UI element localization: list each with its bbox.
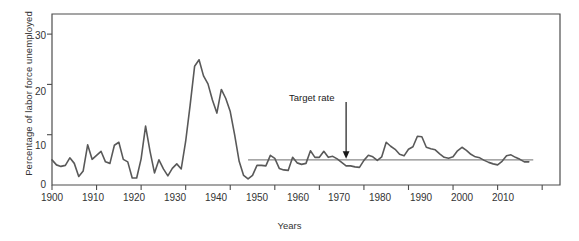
unemployment-chart-figure: Percentage of labor force unemployed Yea… bbox=[0, 0, 579, 241]
plot-area bbox=[0, 0, 579, 241]
target-rate-arrow bbox=[343, 102, 350, 159]
axis-ticks bbox=[47, 34, 542, 190]
unemployment-series-line bbox=[52, 60, 529, 179]
